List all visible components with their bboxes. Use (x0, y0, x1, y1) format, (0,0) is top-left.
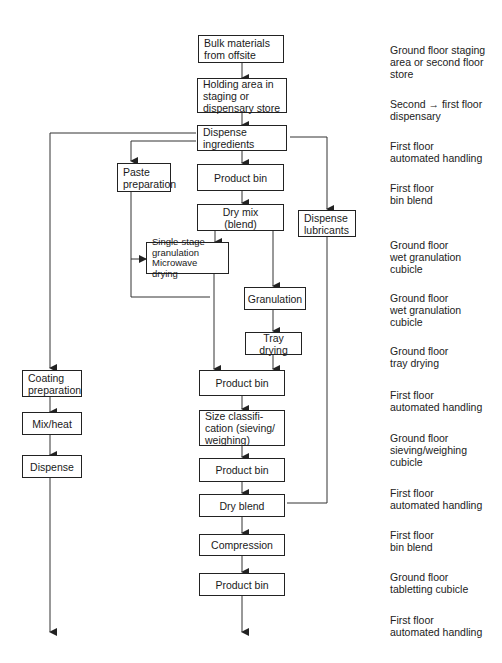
node-label: Coating preparation (28, 372, 81, 396)
node-coating-preparation: Coating preparation (22, 370, 82, 397)
node-product-bin-1: Product bin (197, 164, 284, 191)
node-product-bin-2: Product bin (199, 370, 285, 396)
node-paste-preparation: Paste preparation (117, 163, 171, 192)
node-label: Dry mix (blend) (223, 206, 259, 230)
node-dry-mix: Dry mix (blend) (197, 204, 284, 231)
location-label: Ground floor tabletting cubicle (390, 571, 468, 595)
node-mix-heat: Mix/heat (22, 412, 82, 435)
node-label: Product bin (215, 464, 268, 476)
node-dispense-lubricants: Dispense lubricants (298, 210, 356, 237)
node-bulk-materials: Bulk materials from offsite (198, 35, 284, 63)
location-label: First floor automated handling (390, 614, 482, 638)
node-holding-area: Holding area in staging or dispensary st… (197, 78, 287, 113)
node-label: Bulk materials from offsite (204, 37, 270, 61)
node-dry-blend: Dry blend (199, 494, 285, 517)
node-label: Product bin (214, 172, 267, 184)
node-label: Dry blend (220, 500, 265, 512)
node-label: Granulation (248, 293, 302, 305)
location-label: Ground floor tray drying (390, 345, 448, 369)
node-size-classification: Size classifi- cation (sieving/ weighing… (199, 410, 285, 446)
node-compression: Compression (199, 534, 285, 556)
location-label: First floor automated handling (390, 487, 482, 511)
location-label: Ground floor staging area or second floo… (390, 44, 485, 80)
node-dispense-ingredients: Dispense ingredients (197, 125, 287, 151)
node-dispense-coating: Dispense (22, 455, 82, 478)
node-product-bin-4: Product bin (199, 573, 285, 596)
node-label: Size classifi- cation (sieving/ weighing… (205, 410, 275, 446)
location-label: Ground floor sieving/weighing cubicle (390, 432, 467, 468)
node-granulation: Granulation (244, 287, 306, 310)
node-label: Product bin (215, 579, 268, 591)
flowchart-canvas: Bulk materials from offsite Holding area… (0, 0, 502, 663)
node-label: Dispense lubricants (304, 212, 349, 236)
location-label: Second → first floor dispensary (390, 98, 482, 122)
location-label: First floor automated handling (390, 140, 482, 164)
location-label: Ground floor wet granulation cubicle (390, 292, 461, 328)
node-tray-drying: Tray drying (245, 332, 302, 355)
node-label: Tray drying (251, 332, 296, 356)
node-label: Single-stage granulation Microwave dryin… (152, 237, 223, 279)
node-label: Product bin (215, 377, 268, 389)
node-label: Holding area in staging or dispensary st… (203, 78, 280, 114)
node-label: Dispense (30, 461, 74, 473)
location-label: First floor bin blend (390, 529, 434, 553)
node-label: Paste preparation (123, 166, 176, 190)
location-label: First floor bin blend (390, 182, 434, 206)
node-product-bin-3: Product bin (199, 458, 285, 482)
location-label: First floor automated handling (390, 389, 482, 413)
node-label: Mix/heat (32, 418, 72, 430)
location-label: Ground floor wet granulation cubicle (390, 239, 461, 275)
node-single-stage-granulation: Single-stage granulation Microwave dryin… (146, 242, 229, 274)
node-label: Compression (211, 539, 273, 551)
node-label: Dispense ingredients (203, 126, 254, 150)
